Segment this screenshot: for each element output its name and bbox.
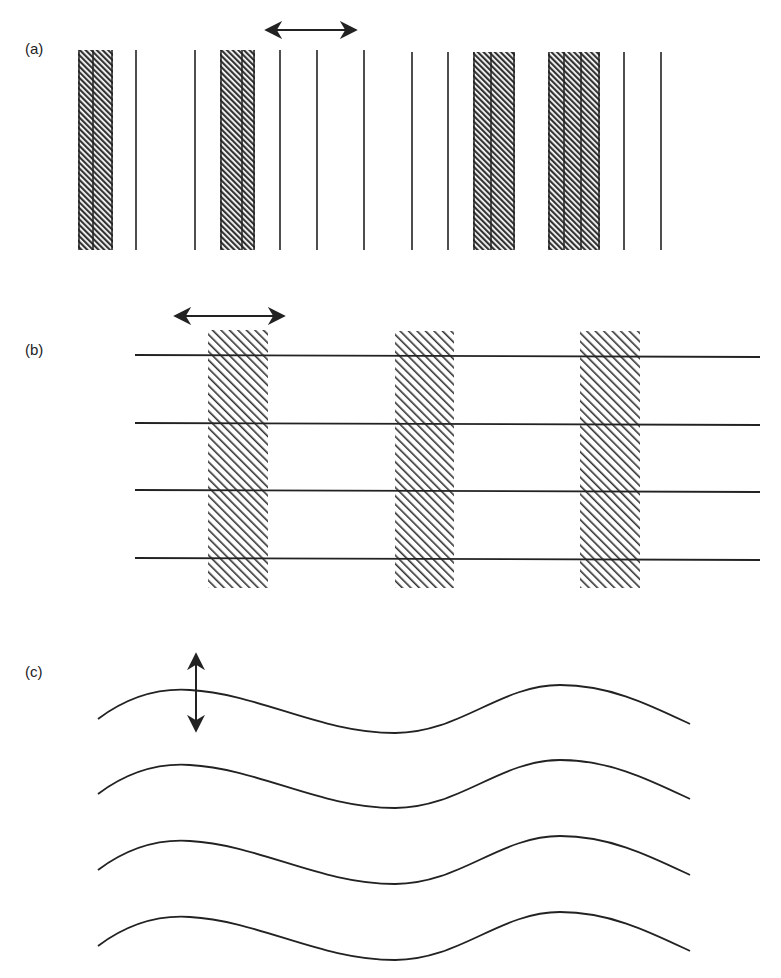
hatched-band [208, 330, 268, 588]
wave-line [98, 685, 690, 733]
figure-canvas [0, 0, 781, 978]
hatched-band [220, 50, 255, 250]
hatched-band [473, 52, 515, 250]
panel-b [135, 316, 760, 588]
wave-line [98, 912, 690, 960]
hatched-band [78, 50, 113, 250]
hatched-band [548, 52, 600, 250]
hatched-band [395, 331, 454, 588]
panel-c [98, 654, 690, 960]
hatched-band [580, 331, 640, 588]
wave-line [98, 836, 690, 884]
panel-a [78, 30, 661, 250]
wave-line [98, 760, 690, 808]
